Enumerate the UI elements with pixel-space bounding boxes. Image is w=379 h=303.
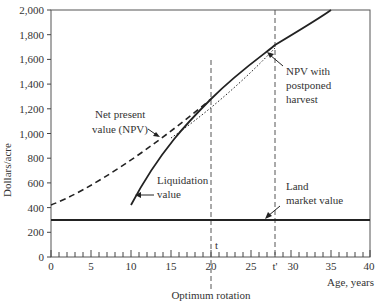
postponed-label: postponed: [286, 79, 332, 91]
x-tick-label: 35: [326, 260, 338, 272]
land-label: market value: [286, 194, 343, 206]
y-axis-label: Dollars/acre: [1, 143, 13, 197]
x-tick-label: 25: [246, 260, 258, 272]
optimum-rotation-label: Optimum rotation: [171, 289, 251, 301]
liquidation-label: Liquidation: [157, 174, 209, 186]
postponed-label: harvest: [286, 93, 318, 105]
npv-label: Net present: [95, 108, 145, 120]
x-tick-label: 10: [126, 260, 138, 272]
x-tick-label: 15: [166, 260, 178, 272]
postponed-arrow: [270, 55, 283, 66]
postponed-label: NPV with: [286, 65, 331, 77]
y-tick-label: 1,000: [19, 128, 44, 140]
x-axis-label: Age, years: [327, 276, 374, 288]
t-prime-tick-label: t': [272, 260, 277, 272]
land-label: Land: [286, 180, 309, 192]
chart: 0 200 400 600 800 1,000 1,200 1,400 1,60…: [0, 0, 379, 303]
liquidation-label: value: [157, 188, 181, 200]
y-tick-label: 400: [28, 202, 45, 214]
npv-label: value (NPV): [92, 123, 148, 136]
y-tick-label: 800: [28, 152, 45, 164]
y-tick-label: 2,000: [19, 4, 44, 16]
y-axis: 0 200 400 600 800 1,000 1,200 1,400 1,60…: [1, 4, 51, 263]
y-tick-label: 1,400: [19, 78, 44, 90]
y-tick-label: 1,200: [19, 103, 44, 115]
y-tick-label: 600: [28, 177, 45, 189]
x-tick-label: 0: [48, 260, 54, 272]
x-tick-label: 30: [288, 260, 300, 272]
t-label: t: [215, 239, 218, 251]
x-tick-label: 40: [364, 260, 376, 272]
y-tick-label: 1,600: [19, 53, 44, 65]
x-tick-label: 5: [88, 260, 94, 272]
x-tick-labels: 0 5 10 15 20 25 30 35 40 t' Age, years: [48, 260, 375, 288]
y-tick-label: 200: [28, 226, 45, 238]
y-tick-label: 1,800: [19, 29, 44, 41]
y-tick-label: 0: [39, 251, 45, 263]
